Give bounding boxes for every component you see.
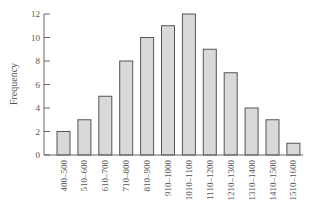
histogram-bar [182, 14, 195, 155]
y-tick-label: 12 [31, 9, 40, 19]
x-category-label: 400–500 [59, 160, 69, 192]
y-tick-label: 4 [36, 103, 41, 113]
x-axis: 400–500510–600610–700710–800810–900910–1… [44, 155, 303, 201]
y-tick-label: 10 [31, 33, 41, 43]
histogram-bar [224, 73, 237, 155]
histogram-bar [162, 26, 175, 155]
histogram-bar [287, 143, 300, 155]
x-category-label: 610–700 [100, 160, 110, 192]
histogram-bar [57, 132, 70, 156]
x-category-label: 810–900 [142, 160, 152, 192]
histogram-bar [120, 61, 133, 155]
y-tick-label: 6 [36, 80, 41, 90]
histogram-bar [99, 96, 112, 155]
x-category-label: 510–600 [79, 160, 89, 192]
y-axis-title: Frequency [8, 63, 19, 105]
y-tick-label: 8 [36, 56, 41, 66]
x-category-label: 1210–1300 [226, 160, 236, 201]
x-category-label: 710–800 [121, 160, 131, 192]
histogram-bar [245, 108, 258, 155]
y-tick-label: 0 [36, 150, 41, 160]
x-category-label: 1510–1600 [288, 160, 298, 201]
histogram-bar [266, 120, 279, 155]
x-category-label: 1010–1100 [184, 160, 194, 201]
histogram-chart: 024681012 400–500510–600610–700710–80081… [0, 0, 318, 208]
y-axis: 024681012 [31, 9, 50, 160]
x-category-label: 910–1000 [163, 160, 173, 197]
x-category-label: 1310–1400 [247, 160, 257, 201]
x-category-label: 1410–1500 [268, 160, 278, 201]
bars-group [57, 14, 300, 155]
y-tick-label: 2 [36, 127, 41, 137]
x-category-label: 1110–1200 [205, 160, 215, 200]
histogram-bar [78, 120, 91, 155]
histogram-bar [141, 38, 154, 156]
histogram-bar [203, 49, 216, 155]
